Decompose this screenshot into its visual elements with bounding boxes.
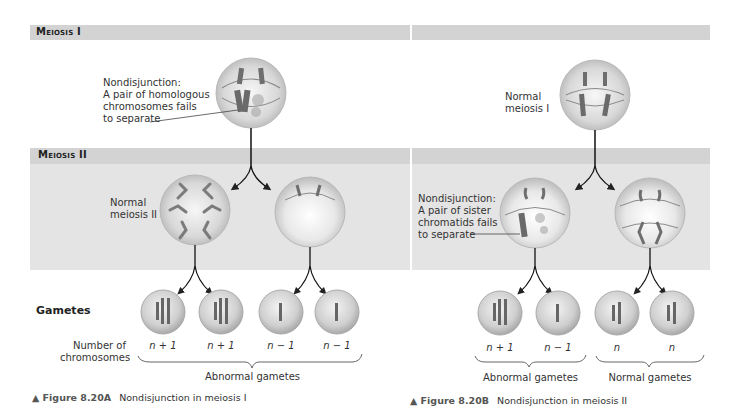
cell-meiosis2-nondisjunction	[500, 178, 570, 248]
caption-figure-a: ▲ Figure 8.20ANondisjunction in meiosis …	[32, 392, 246, 403]
gamete-b4	[650, 291, 694, 335]
count-label: Number of chromosomes	[60, 340, 126, 364]
brace-abnormal-a	[138, 354, 362, 368]
cell-meiosis2-left-a	[160, 175, 230, 245]
count-b2: n − 1	[533, 342, 583, 353]
cell-meiosis1-normal	[560, 60, 630, 130]
annotation-normal-meiosis1: Normal meiosis I	[505, 91, 549, 115]
gamete-b2	[536, 291, 580, 335]
group-label-abnormal-b: Abnormal gametes	[478, 372, 583, 383]
group-label-normal-b: Normal gametes	[600, 372, 700, 383]
gamete-b3	[595, 291, 639, 335]
count-a4: n − 1	[312, 340, 362, 351]
cell-meiosis1-nondisjunction	[216, 58, 286, 128]
gamete-a2	[199, 290, 243, 334]
count-b1: n + 1	[475, 342, 525, 353]
brace-abnormal-b	[475, 355, 586, 367]
count-a2: n + 1	[196, 340, 246, 351]
annotation-nondisjunction-meiosis2: Nondisjunction: A pair of sister chromat…	[418, 193, 498, 241]
annotation-normal-meiosis2: Normal meiosis II	[110, 197, 157, 221]
count-a3: n − 1	[256, 340, 306, 351]
caption-figure-b: ▲ Figure 8.20BNondisjunction in meiosis …	[410, 395, 627, 406]
count-a1: n + 1	[138, 340, 188, 351]
gamete-a1	[141, 290, 185, 334]
gamete-b1	[478, 291, 522, 335]
cell-meiosis2-normal-b	[615, 178, 685, 248]
group-label-abnormal-a: Abnormal gametes	[200, 371, 305, 382]
gametes-title: Gametes	[36, 304, 91, 317]
count-b3: n	[592, 342, 642, 353]
brace-normal-b	[596, 355, 704, 367]
gamete-a3	[259, 290, 303, 334]
count-b4: n	[647, 342, 697, 353]
gamete-a4	[315, 290, 359, 334]
cell-meiosis2-right-a	[275, 177, 345, 247]
annotation-nondisjunction-meiosis1: Nondisjunction: A pair of homologous chr…	[103, 77, 210, 125]
